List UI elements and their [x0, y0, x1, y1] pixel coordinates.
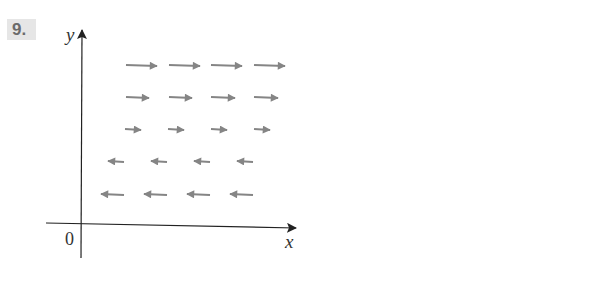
vector-arrow-right	[254, 129, 270, 130]
origin-label: 0	[65, 229, 74, 249]
vector-arrow-right	[211, 97, 235, 98]
x-axis-label: x	[284, 231, 294, 252]
vector-arrow-left	[237, 161, 253, 162]
vector-arrow-left	[108, 161, 124, 162]
x-axis	[46, 223, 296, 228]
vector-arrow-right	[169, 97, 192, 98]
vector-arrow-left	[230, 194, 253, 195]
vector-arrow-left	[144, 194, 167, 195]
vector-arrow-right	[254, 97, 278, 98]
vector-arrow-right	[168, 129, 184, 130]
vector-field-diagram: y x 0	[0, 0, 602, 283]
vector-arrow-right	[126, 65, 157, 66]
vector-arrow-right	[126, 97, 149, 98]
vector-arrow-left	[101, 194, 124, 195]
vector-arrow-left	[151, 161, 167, 162]
vector-arrow-right	[211, 129, 227, 130]
vector-arrow-left	[194, 161, 210, 162]
vector-arrow-right	[125, 129, 141, 130]
vector-arrow-left	[187, 194, 210, 195]
vector-arrow-right	[254, 65, 285, 66]
vector-arrow-right	[211, 65, 242, 66]
y-axis-label: y	[64, 24, 75, 45]
vector-arrow-right	[169, 65, 200, 66]
vector-arrows	[101, 65, 285, 195]
